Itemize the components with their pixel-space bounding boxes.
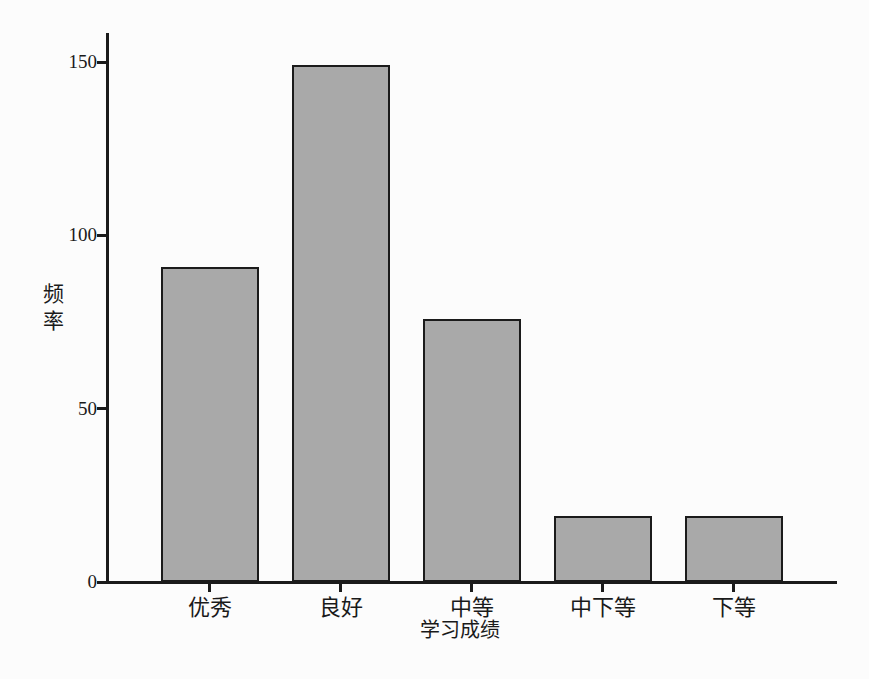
bar-chart-figure: 050100150 优秀良好中等中下等下等 频率 学习成绩 <box>0 0 869 679</box>
bar <box>554 516 652 582</box>
bar <box>423 319 521 582</box>
y-tick-mark <box>97 581 106 584</box>
y-tick-label: 100 <box>27 225 97 245</box>
y-tick-label: 50 <box>27 399 97 419</box>
y-tick-mark <box>97 61 106 64</box>
x-category-label: 良好 <box>271 596 411 620</box>
y-tick-label: 150 <box>27 52 97 72</box>
x-category-label: 中等 <box>402 596 542 620</box>
x-category-label: 优秀 <box>140 596 280 620</box>
bar <box>685 516 783 582</box>
y-axis-title: 频率 <box>38 281 68 335</box>
bar <box>161 267 259 582</box>
x-category-label: 中下等 <box>533 596 673 620</box>
x-tick-mark <box>208 584 211 592</box>
bar <box>292 65 390 582</box>
y-tick-mark <box>97 234 106 237</box>
x-category-label: 下等 <box>664 596 804 620</box>
x-tick-mark <box>470 584 473 592</box>
x-tick-mark <box>601 584 604 592</box>
y-tick-label: 0 <box>27 572 97 592</box>
x-tick-mark <box>732 584 735 592</box>
y-axis-title-char: 频 <box>38 281 68 308</box>
y-tick-mark <box>97 407 106 410</box>
x-axis-title: 学习成绩 <box>360 619 560 641</box>
y-axis-line <box>106 33 109 584</box>
y-axis-title-char: 率 <box>38 308 68 335</box>
x-tick-mark <box>339 584 342 592</box>
